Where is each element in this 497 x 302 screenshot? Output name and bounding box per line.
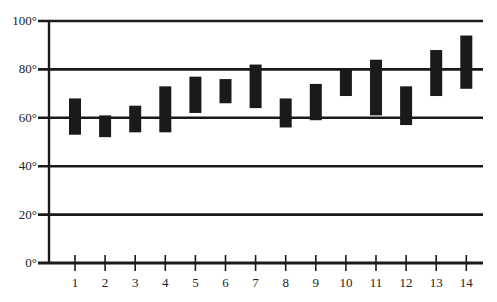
x-tick-label-1: 1 — [72, 275, 79, 290]
y-tick-label-60: 60° — [19, 110, 37, 125]
x-tick-label-2: 2 — [102, 275, 109, 290]
range-bar-10 — [340, 69, 352, 96]
range-bar-12 — [400, 86, 412, 125]
range-bar-8 — [280, 98, 292, 127]
range-bar-5 — [189, 77, 201, 113]
x-tick-label-4: 4 — [162, 275, 169, 290]
y-axis-labels: 0°20°40°60°80°100° — [12, 13, 37, 270]
x-tick-label-13: 13 — [430, 275, 443, 290]
y-tick-label-20: 20° — [19, 207, 37, 222]
x-axis-labels: 1234567891011121314 — [72, 275, 474, 290]
x-tick-label-10: 10 — [339, 275, 352, 290]
range-bar-1 — [69, 98, 81, 134]
y-tick-label-0: 0° — [25, 255, 37, 270]
x-tick-label-14: 14 — [460, 275, 474, 290]
x-tick-label-3: 3 — [132, 275, 139, 290]
range-bars — [69, 36, 472, 138]
x-tick-label-5: 5 — [192, 275, 199, 290]
range-bar-11 — [370, 60, 382, 116]
range-bar-4 — [159, 86, 171, 132]
x-tick-label-12: 12 — [400, 275, 413, 290]
range-bar-9 — [310, 84, 322, 120]
range-bar-6 — [220, 79, 232, 103]
y-tick-label-40: 40° — [19, 158, 37, 173]
x-tick-label-9: 9 — [313, 275, 320, 290]
temperature-range-chart: 0°20°40°60°80°100° 1234567891011121314 — [0, 0, 497, 302]
range-bar-3 — [129, 106, 141, 133]
y-tick-label-100: 100° — [12, 13, 37, 28]
x-tick-label-11: 11 — [370, 275, 383, 290]
x-tick-label-8: 8 — [282, 275, 289, 290]
x-tick-label-7: 7 — [252, 275, 259, 290]
range-bar-14 — [460, 36, 472, 89]
range-bar-7 — [250, 65, 262, 109]
x-tick-label-6: 6 — [222, 275, 229, 290]
range-bar-13 — [430, 50, 442, 96]
range-bar-2 — [99, 115, 111, 137]
gridlines — [38, 21, 483, 263]
y-tick-label-80: 80° — [19, 61, 37, 76]
